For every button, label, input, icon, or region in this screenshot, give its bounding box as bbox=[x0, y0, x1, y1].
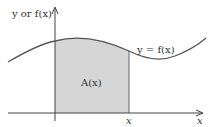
shaded-area bbox=[55, 38, 129, 113]
y-axis-label: y or f(x) bbox=[11, 8, 52, 19]
area-label: A(x) bbox=[80, 77, 102, 88]
curve-label: y = f(x) bbox=[136, 44, 175, 55]
x-axis-label: x bbox=[197, 115, 203, 126]
area-under-curve-diagram: y or f(x) y = f(x) A(x) x x bbox=[0, 0, 208, 127]
x-tick-label: x bbox=[126, 115, 132, 126]
